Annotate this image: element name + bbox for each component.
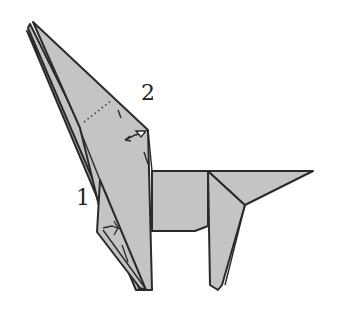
origami-diagram: 1 2 [0,0,346,315]
origami-figure [0,0,346,315]
step-label-1: 1 [76,187,90,209]
neck-flap [33,22,152,290]
step-label-2: 2 [141,82,155,104]
body [152,171,208,231]
